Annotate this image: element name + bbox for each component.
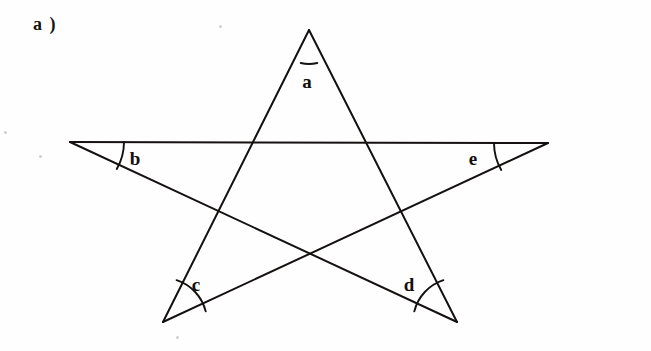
figure-canvas: a ) abcde [0,0,651,351]
arc-angle-a [301,63,317,64]
star-edge-apex-to-bottom-left [163,30,309,322]
angle-b-label: b [130,149,141,168]
pentagram-diagram [0,0,651,351]
star-edge-apex-to-bottom-right [309,30,457,322]
angle-a-label: a [302,72,312,91]
star-edge-left-to-right [70,142,548,143]
angle-arcs [117,63,501,311]
angle-c-label: c [192,275,200,294]
angle-d-label: d [404,275,415,294]
star-edge-right-to-bottom-left [163,143,548,322]
angle-e-label: e [469,149,477,168]
star-edge-left-to-bottom-right [70,142,457,322]
